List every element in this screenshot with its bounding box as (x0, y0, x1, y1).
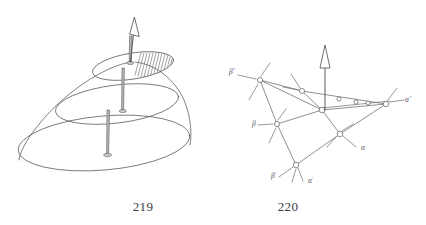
figure-220: β″ β β′ α′ α α″ 220 (228, 45, 412, 214)
node-chain-b (354, 100, 358, 104)
stub-alpha-side (327, 136, 337, 147)
axis-labels: β″ β β′ α′ α α″ (228, 67, 412, 185)
dome-right-meridian (135, 62, 191, 145)
axis-label-alpha-double-prime: α″ (405, 95, 412, 104)
lower-section (16, 109, 192, 178)
middle-section-ellipse (53, 78, 181, 131)
upper-section-ellipse (90, 47, 175, 86)
bond-topmid-rightcorner (302, 91, 386, 104)
node-right-corner (383, 101, 389, 107)
bond-beta2-center (260, 80, 322, 110)
bond-center-alpha (322, 110, 340, 134)
axis-label-beta: β (251, 119, 256, 128)
node-top-mid (299, 88, 304, 93)
figure-caption-220: 220 (278, 199, 299, 214)
stub-alpha-out (343, 136, 356, 147)
node-chain-c (366, 101, 370, 105)
axis-label-beta-double-prime: β″ (228, 67, 236, 76)
vertical-arrow-head (320, 45, 330, 68)
vertical-arrow (320, 45, 330, 110)
stub-beta-out (258, 124, 273, 125)
node-beta2-corner (257, 77, 262, 82)
apex-arrow-head (130, 17, 140, 37)
axis-label-alpha: α (361, 143, 365, 152)
figure-plate: 219 (0, 0, 426, 225)
node-bottom (293, 162, 299, 168)
upper-section (90, 47, 175, 86)
node-center (319, 107, 325, 113)
pin-shaft (107, 110, 110, 154)
stub-bottom-beta1 (279, 167, 293, 177)
stub-rightcorner-out (390, 100, 404, 102)
figure-219: 219 (16, 17, 192, 214)
figure-caption-219: 219 (133, 199, 154, 214)
node-chain-a (337, 97, 341, 101)
dome-outline (19, 62, 191, 160)
stub-beta2-out (238, 75, 256, 79)
pin-shaft (122, 68, 125, 110)
stub-beta-up (278, 109, 286, 120)
pin-base (119, 109, 126, 112)
stub-beta-down (269, 128, 276, 143)
stub-bottom-alpha1 (298, 168, 303, 181)
bond-rightcorner-alpha (340, 104, 386, 134)
node-beta-left (274, 121, 279, 126)
axis-label-alpha-prime: α′ (308, 176, 314, 185)
bond-alpha-bottom (296, 134, 340, 165)
middle-section (53, 78, 181, 131)
middle-section-pin (119, 68, 126, 113)
pin-base (104, 153, 112, 156)
stub-rightcorner-up (388, 88, 397, 100)
stub-beta2-up (261, 63, 270, 76)
stub-topmid-up (291, 74, 300, 88)
stub-alpha-up (342, 124, 353, 131)
plate-canvas: 219 (0, 0, 426, 225)
stub-beta2-down (249, 84, 258, 100)
axis-label-beta-prime: β′ (270, 171, 277, 180)
lower-section-pin (104, 110, 112, 157)
bond-beta-bottom (277, 124, 296, 165)
stub-topmid-left (283, 87, 299, 90)
stub-bottom-down (292, 169, 296, 182)
dome-left-meridian (19, 62, 131, 160)
lattice-nodes (257, 77, 388, 167)
lower-section-ellipse (16, 109, 192, 178)
node-alpha-right (337, 131, 343, 137)
